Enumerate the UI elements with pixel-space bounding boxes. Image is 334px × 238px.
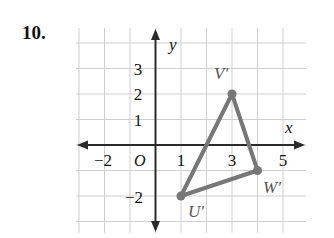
y-tick-label-2: 2 bbox=[134, 85, 143, 104]
vertex-point-w bbox=[253, 166, 262, 175]
vertex-point-u bbox=[177, 192, 186, 201]
coordinate-plane: y x O 3 2 1 −2 −2 1 3 5 U' V' W' bbox=[76, 28, 306, 233]
problem-number: 10. bbox=[22, 22, 46, 44]
vertex-label-u: U' bbox=[188, 202, 204, 221]
x-tick-label-neg2: −2 bbox=[94, 151, 112, 170]
y-tick-label-neg2: −2 bbox=[125, 188, 143, 207]
vertex-label-v: V' bbox=[214, 64, 228, 83]
origin-label: O bbox=[134, 152, 146, 169]
y-tick-label-1: 1 bbox=[134, 111, 143, 130]
y-tick-label-3: 3 bbox=[134, 60, 143, 79]
coordinate-plane-svg: y x O 3 2 1 −2 −2 1 3 5 U' V' W' bbox=[76, 28, 306, 233]
figure-container: 10. bbox=[0, 0, 334, 238]
vertex-label-w: W' bbox=[263, 178, 281, 197]
x-axis-label: x bbox=[284, 118, 293, 137]
x-tick-label-3: 3 bbox=[228, 151, 237, 170]
y-axis-label: y bbox=[167, 35, 177, 54]
vertex-point-v bbox=[228, 90, 237, 99]
x-tick-label-5: 5 bbox=[279, 151, 288, 170]
x-tick-label-1: 1 bbox=[177, 151, 186, 170]
